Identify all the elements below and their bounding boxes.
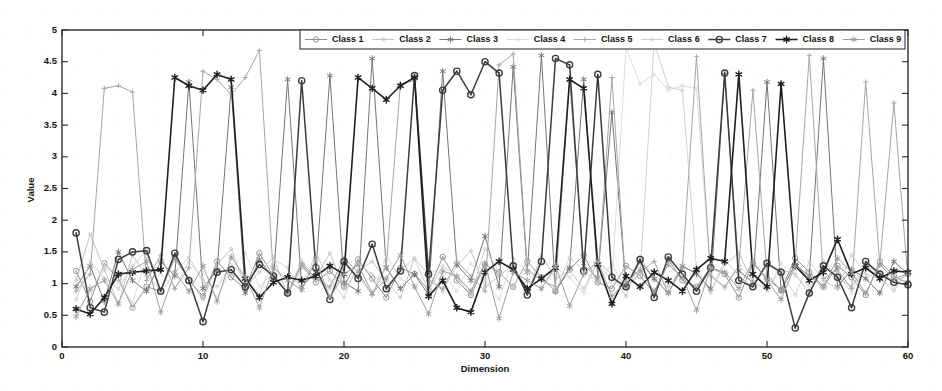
x-tick-label: 30	[480, 350, 491, 361]
y-tick-label: 0.5	[44, 309, 58, 320]
y-tick-label: 4	[52, 87, 58, 98]
x-tick-label: 40	[621, 350, 632, 361]
y-tick-label: 3	[52, 150, 57, 161]
y-axis-title: Value	[25, 178, 36, 203]
legend-label: Class 3	[466, 34, 498, 44]
legend-label: Class 2	[399, 34, 431, 44]
x-tick-label: 60	[903, 350, 914, 361]
x-tick-label: 0	[59, 350, 64, 361]
y-tick-label: 1	[52, 277, 58, 288]
x-axis-title: Dimension	[461, 363, 510, 374]
figure-container: 00.511.522.533.544.550102030405060 Class…	[0, 0, 942, 391]
x-tick-label: 10	[198, 350, 209, 361]
legend-label: Class 5	[601, 34, 633, 44]
y-tick-label: 0	[52, 341, 57, 352]
y-tick-label: 2.5	[44, 182, 58, 193]
line-chart: 00.511.522.533.544.550102030405060 Class…	[0, 0, 942, 391]
x-tick-label: 50	[762, 350, 773, 361]
legend-label: Class 8	[803, 34, 835, 44]
legend-label: Class 4	[534, 34, 566, 44]
chart-legend: Class 1Class 2Class 3Class 4Class 5Class…	[300, 30, 905, 49]
y-tick-label: 2	[52, 214, 57, 225]
x-tick-label: 20	[339, 350, 350, 361]
legend-label: Class 6	[668, 34, 700, 44]
y-tick-label: 4.5	[44, 55, 58, 66]
legend-label: Class 7	[735, 34, 767, 44]
chart-background	[0, 0, 942, 391]
y-tick-label: 5	[52, 24, 58, 35]
y-tick-label: 1.5	[44, 245, 58, 256]
legend-label: Class 1	[332, 34, 364, 44]
y-tick-label: 3.5	[44, 119, 58, 130]
legend-label: Class 9	[870, 34, 902, 44]
